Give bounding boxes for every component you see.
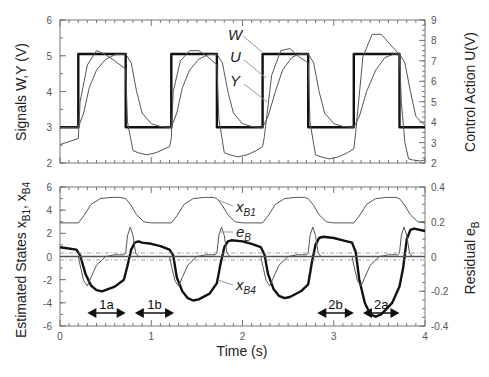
svg-text:-0.2: -0.2	[431, 286, 449, 297]
series-w	[60, 54, 425, 127]
svg-text:4: 4	[422, 331, 428, 342]
svg-text:0.2: 0.2	[431, 217, 445, 228]
svg-text:6: 6	[431, 76, 437, 87]
region-label-2a: 2a	[374, 297, 389, 312]
svg-text:3: 3	[331, 331, 337, 342]
svg-text:5: 5	[431, 97, 437, 108]
svg-text:0: 0	[46, 252, 52, 263]
series-y	[60, 54, 425, 127]
arrow-right-icon	[345, 308, 354, 318]
region-label-2b: 2b	[328, 297, 342, 312]
arrow-left-icon	[87, 308, 96, 318]
bottom-ticks: 01234-6-4-20246-0.4-0.200.20.4	[43, 182, 449, 342]
bottom-curves	[60, 197, 425, 316]
label-xB4: xB4	[235, 276, 256, 296]
svg-text:7: 7	[431, 56, 437, 67]
svg-text:8: 8	[431, 35, 437, 46]
svg-text:5: 5	[46, 51, 52, 62]
svg-text:2: 2	[46, 228, 52, 239]
region-label-1b: 1b	[147, 297, 161, 312]
svg-text:-2: -2	[43, 275, 52, 286]
arrow-left-icon	[317, 308, 326, 318]
svg-text:2: 2	[240, 331, 246, 342]
svg-text:2: 2	[431, 158, 437, 169]
region-annotations: 1a1b2b2a	[87, 297, 399, 318]
svg-text:0.4: 0.4	[431, 182, 445, 193]
region-label-1a: 1a	[99, 297, 114, 312]
svg-text:0: 0	[431, 252, 437, 263]
label-W: W	[228, 26, 244, 43]
bottom-left-axis-title: Estimated States xB1, xB4	[13, 182, 32, 338]
label-Y: Y	[230, 72, 241, 89]
arrow-right-icon	[117, 308, 126, 318]
svg-text:1: 1	[148, 331, 154, 342]
bottom-right-axis-title: Residual eB	[462, 221, 481, 294]
arrow-right-icon	[390, 308, 399, 318]
svg-text:6: 6	[46, 182, 52, 193]
svg-text:4: 4	[46, 205, 52, 216]
figure: 2345623456789 01234-6-4-20246-0.4-0.200.…	[0, 0, 489, 377]
leader-W	[243, 36, 262, 52]
label-xB1: xB1	[235, 198, 256, 218]
label-U: U	[230, 48, 241, 65]
svg-text:4: 4	[431, 117, 437, 128]
top-curves	[60, 34, 425, 161]
svg-text:6: 6	[46, 15, 52, 26]
svg-text:2: 2	[46, 158, 52, 169]
top-left-axis-title: Signals W,Y (V)	[13, 43, 29, 141]
svg-text:3: 3	[431, 138, 437, 149]
svg-text:-0.4: -0.4	[431, 321, 449, 332]
bottom-panel: 01234-6-4-20246-0.4-0.200.20.4 1a1b2b2a	[43, 182, 449, 342]
arrow-left-icon	[135, 308, 144, 318]
svg-text:-6: -6	[43, 321, 52, 332]
svg-text:-4: -4	[43, 298, 52, 309]
top-plot-frame	[60, 20, 425, 163]
series-x-b4	[60, 229, 425, 317]
top-right-axis-title: Control Action U(V)	[462, 32, 478, 152]
leader-xB4	[218, 280, 233, 285]
svg-text:0: 0	[57, 331, 63, 342]
arrow-right-icon	[165, 308, 174, 318]
x-axis-title: Time (s)	[217, 343, 268, 359]
svg-text:9: 9	[431, 15, 437, 26]
svg-text:3: 3	[46, 122, 52, 133]
svg-text:4: 4	[46, 87, 52, 98]
